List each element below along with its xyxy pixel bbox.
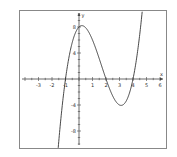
- y-tick-label: 8: [73, 24, 76, 30]
- function-graph: -3-2-112345684-4-8 x y: [0, 0, 177, 157]
- y-tick-label: 4: [73, 50, 76, 56]
- x-tick-label: -2: [50, 82, 55, 88]
- y-tick-label: -8: [71, 128, 76, 134]
- x-tick-label: 3: [118, 82, 121, 88]
- y-tick-label: -4: [71, 102, 76, 108]
- x-tick-label: 5: [145, 82, 148, 88]
- x-tick-label: 6: [158, 82, 161, 88]
- x-axis-label: x: [160, 71, 163, 77]
- plot-frame: [20, 11, 167, 149]
- x-tick-label: -1: [63, 82, 68, 88]
- x-tick-label: -3: [36, 82, 41, 88]
- y-axis-label: y: [82, 12, 85, 19]
- x-tick-label: 1: [91, 82, 94, 88]
